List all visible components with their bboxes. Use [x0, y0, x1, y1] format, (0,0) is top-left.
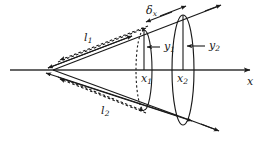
label-l1-base: l [84, 31, 88, 44]
radius-tick-arrows [147, 46, 205, 47]
lower-edge-span-arrows [46, 73, 192, 121]
cone-lower-edge-arrow [201, 124, 219, 131]
cone-geometry-figure: l1 l2 δx y1 y2 x1 x2 x [0, 0, 263, 147]
label-l1: l1 [84, 32, 92, 43]
label-x2-sub: 2 [183, 77, 188, 86]
label-x1-sub: 1 [147, 77, 152, 86]
label-delta-x: δx [146, 5, 157, 16]
label-y1-sub: 1 [170, 45, 175, 54]
cone-edge-arrowheads [201, 5, 221, 131]
label-l2: l2 [101, 105, 109, 116]
label-delta-sub: x [153, 9, 157, 18]
l1-dashed-line-reverse [58, 28, 146, 62]
label-x-axis: x [247, 76, 253, 87]
label-y2-sub: 2 [215, 44, 220, 53]
label-l2-sub: 2 [105, 109, 110, 118]
label-y2: y2 [209, 40, 220, 51]
cone-upper-edge-arrow [205, 5, 221, 11]
l1-dashed-line [60, 26, 148, 60]
label-l2-base: l [101, 104, 105, 117]
figure-canvas [0, 0, 263, 147]
label-x-axis-base: x [247, 75, 253, 88]
label-x1: x1 [141, 73, 152, 84]
label-y1: y1 [164, 41, 175, 52]
delta-arrow-right [160, 6, 186, 16]
label-x2: x2 [177, 73, 188, 84]
label-l1-sub: 1 [88, 36, 93, 45]
label-delta-base: δ [146, 4, 153, 17]
slant-length-l1-measure [58, 26, 148, 62]
